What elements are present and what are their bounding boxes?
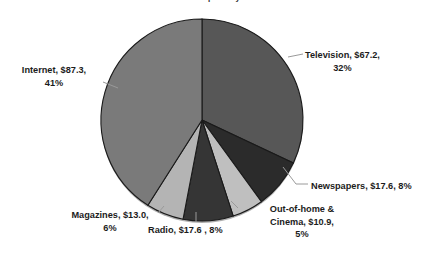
slice-label-outofhome-line2: Cinema, $10.9, [256,216,348,229]
pie-chart-screenshot: Global ad spend by medium Television, $6… [0,0,437,255]
slice-label-out-of-home-and-cinema: Out-of-home & Cinema, $10.9, 5% [256,203,348,241]
pie-slices [101,19,303,221]
slice-label-newspapers: Newspapers, $17.6, 8% [311,180,412,193]
slice-label-magazines: Magazines, $13.0, 6% [58,209,162,234]
slice-label-internet: Internet, $87.3, 41% [8,64,100,89]
slice-label-television-line1: Television, $67.2, [305,50,380,60]
slice-label-newspapers-line1: Newspapers, $17.6, 8% [311,181,412,191]
slice-label-television-line2: 32% [305,62,380,75]
slice-label-internet-line2: 41% [8,77,100,90]
slice-label-magazines-line1: Magazines, $13.0, [71,210,148,220]
slice-label-internet-line1: Internet, $87.3, [22,65,86,75]
slice-label-magazines-line2: 6% [58,222,162,235]
slice-label-outofhome-line3: 5% [256,228,348,241]
slice-label-television: Television, $67.2, 32% [305,49,380,74]
leader-line-television [288,54,303,57]
slice-label-outofhome-line1: Out-of-home & [270,204,334,214]
